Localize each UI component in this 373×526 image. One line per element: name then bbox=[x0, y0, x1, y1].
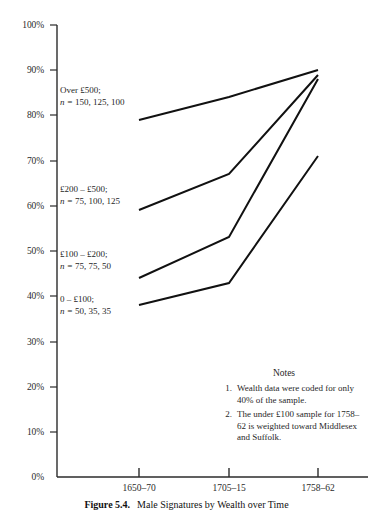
notes-block: Notes 1. Wealth data were coded for only… bbox=[218, 368, 368, 447]
series-line-over-500 bbox=[139, 70, 318, 120]
ytick-label-70: 70% bbox=[2, 156, 44, 166]
ytick-label-90: 90% bbox=[2, 65, 44, 75]
ytick-label-30: 30% bbox=[2, 337, 44, 347]
ytick-label-50: 50% bbox=[2, 246, 44, 256]
series-line-100-200 bbox=[139, 79, 318, 278]
xtick-label-1758-62: 1758–62 bbox=[283, 483, 353, 493]
note-number: 2. bbox=[218, 409, 237, 443]
ytick-label-80: 80% bbox=[2, 110, 44, 120]
note-text: The under £100 sample for 1758–62 is wei… bbox=[237, 409, 368, 443]
xtick-label-1650-70: 1650–70 bbox=[104, 483, 174, 493]
note-item: 1. Wealth data were coded for only 40% o… bbox=[218, 383, 368, 406]
series-label-100-200-n: n = 75, 75, 50 bbox=[60, 261, 111, 273]
figure-number: Figure 5.4. bbox=[84, 499, 130, 510]
figure-caption-text: Male Signatures by Wealth over Time bbox=[130, 499, 289, 510]
note-text: Wealth data were coded for only 40% of t… bbox=[237, 383, 368, 406]
notes-title: Notes bbox=[218, 368, 368, 379]
ytick-label-60: 60% bbox=[2, 201, 44, 211]
series-label-200-500-n: n = 75, 100, 125 bbox=[60, 196, 120, 208]
series-label-100-200-title: £100 – £200; bbox=[60, 249, 111, 261]
xtick-label-1705-15: 1705–15 bbox=[194, 483, 264, 493]
series-label-0-100-title: 0 – £100; bbox=[60, 294, 111, 306]
series-line-0-100 bbox=[139, 156, 318, 305]
series-label-200-500-title: £200 – £500; bbox=[60, 184, 120, 196]
figure-container: 100% 90% 80% 70% 60% 50% 40% 30% 20% 10%… bbox=[0, 0, 373, 526]
ytick-label-0: 0% bbox=[2, 472, 44, 482]
series-label-over-500: Over £500; n = 150, 125, 100 bbox=[60, 85, 125, 108]
series-label-0-100: 0 – £100; n = 50, 35, 35 bbox=[60, 294, 111, 317]
series-label-over-500-n: n = 150, 125, 100 bbox=[60, 97, 125, 109]
series-label-over-500-title: Over £500; bbox=[60, 85, 125, 97]
series-label-100-200: £100 – £200; n = 75, 75, 50 bbox=[60, 249, 111, 272]
chart-plot-area bbox=[0, 0, 373, 526]
ytick-label-10: 10% bbox=[2, 427, 44, 437]
series-line-200-500 bbox=[139, 75, 318, 210]
series-label-200-500: £200 – £500; n = 75, 100, 125 bbox=[60, 184, 120, 207]
note-item: 2. The under £100 sample for 1758–62 is … bbox=[218, 409, 368, 443]
figure-caption: Figure 5.4.Male Signatures by Wealth ove… bbox=[0, 499, 373, 510]
ytick-label-100: 100% bbox=[2, 20, 44, 30]
x-axis-ticks bbox=[139, 468, 318, 477]
ytick-label-20: 20% bbox=[2, 382, 44, 392]
note-number: 1. bbox=[218, 383, 237, 406]
series-label-0-100-n: n = 50, 35, 35 bbox=[60, 306, 111, 318]
ytick-label-40: 40% bbox=[2, 291, 44, 301]
y-axis-ticks bbox=[50, 25, 57, 432]
